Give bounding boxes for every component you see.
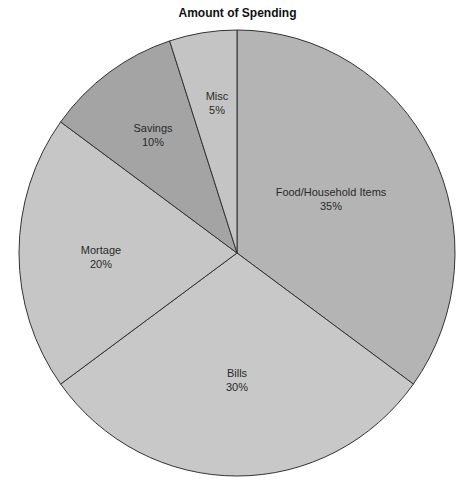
slice-percent: 10% — [142, 136, 164, 148]
slice-label: Food/Household Items — [276, 186, 387, 198]
slice-label: Misc — [206, 90, 229, 102]
pie-chart: Food/Household Items35%Bills30%Mortage20… — [0, 0, 467, 489]
slice-percent: 20% — [90, 258, 112, 270]
slice-percent: 30% — [226, 381, 248, 393]
slice-percent: 35% — [320, 200, 342, 212]
slice-percent: 5% — [209, 104, 225, 116]
slice-label: Bills — [227, 367, 248, 379]
slice-label: Savings — [133, 122, 173, 134]
slice-label: Mortage — [81, 244, 121, 256]
